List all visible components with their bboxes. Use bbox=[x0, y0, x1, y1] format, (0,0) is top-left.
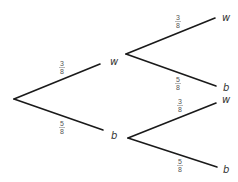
fraction-w-w: 3 8 bbox=[175, 14, 181, 29]
fraction-w-b: 5 8 bbox=[175, 76, 181, 91]
fraction-denominator: 8 bbox=[60, 68, 64, 75]
branch-b-to-w bbox=[128, 103, 216, 138]
node-label-level1-b: b bbox=[111, 130, 117, 141]
fraction-denominator: 8 bbox=[178, 166, 182, 173]
fraction-numerator: 5 bbox=[176, 76, 180, 83]
fraction-numerator: 5 bbox=[60, 120, 64, 127]
fraction-denominator: 8 bbox=[60, 128, 64, 135]
branch-w-to-w bbox=[126, 18, 215, 54]
node-label-level1-w: w bbox=[110, 56, 119, 67]
fraction-denominator: 8 bbox=[176, 84, 180, 91]
fraction-denominator: 8 bbox=[176, 22, 180, 29]
fraction-b-w: 3 8 bbox=[177, 98, 183, 113]
node-label-ww: w bbox=[222, 12, 231, 23]
fraction-numerator: 3 bbox=[60, 60, 64, 67]
probability-tree-diagram: w b 3 8 5 8 w b w b 3 8 5 8 3 8 5 8 bbox=[0, 0, 238, 182]
fraction-numerator: 5 bbox=[178, 158, 182, 165]
node-label-wb: b bbox=[223, 82, 229, 93]
fraction-root-b: 5 8 bbox=[59, 120, 65, 135]
fraction-numerator: 3 bbox=[178, 98, 182, 105]
branch-b-to-b bbox=[128, 138, 217, 167]
branch-root-to-w bbox=[14, 64, 100, 99]
node-label-bw: w bbox=[222, 94, 231, 105]
node-label-bb: b bbox=[223, 164, 229, 175]
branch-w-to-b bbox=[126, 54, 216, 86]
fraction-b-b: 5 8 bbox=[177, 158, 183, 173]
fraction-numerator: 3 bbox=[176, 14, 180, 21]
branch-root-to-b bbox=[14, 99, 103, 130]
fraction-root-w: 3 8 bbox=[59, 60, 65, 75]
fraction-denominator: 8 bbox=[178, 106, 182, 113]
